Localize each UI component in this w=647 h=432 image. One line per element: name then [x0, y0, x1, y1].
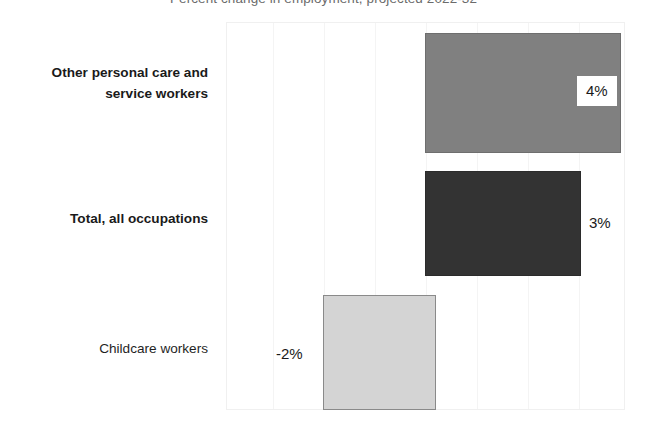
category-label-line1: Childcare workers	[0, 338, 208, 359]
value-label-other-personal-care-and-service-workers: 4%	[577, 76, 617, 106]
category-label-childcare-workers: Childcare workers	[0, 338, 208, 359]
category-label-line1: Other personal care and	[0, 62, 208, 83]
bar-childcare-workers	[323, 295, 436, 410]
category-label-line2: service workers	[0, 83, 208, 104]
bar-chart: Percent change in employment, projected …	[0, 0, 647, 432]
category-label-line1: Total, all occupations	[0, 208, 208, 229]
category-axis-labels: Other personal care and service workers …	[0, 22, 216, 410]
plot-area: 4% 3% -2%	[226, 22, 625, 410]
value-label-childcare-workers: -2%	[276, 346, 303, 361]
bars-group: 4% 3% -2%	[227, 23, 624, 409]
value-label-total-all-occupations: 3%	[589, 215, 611, 230]
category-label-total-all-occupations: Total, all occupations	[0, 208, 208, 229]
chart-title: Percent change in employment, projected …	[0, 0, 647, 6]
bar-total-all-occupations	[425, 171, 581, 276]
category-label-other-personal-care-and-service-workers: Other personal care and service workers	[0, 62, 208, 104]
